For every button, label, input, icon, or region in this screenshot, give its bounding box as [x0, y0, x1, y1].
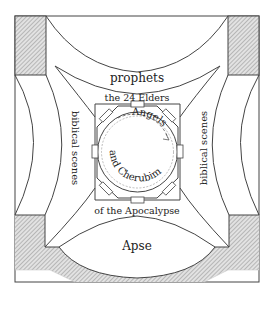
pier-top-left	[15, 16, 46, 75]
label-elders-bottom: of the Apocalypse	[94, 205, 180, 216]
label-apse: Apse	[121, 239, 152, 253]
ceiling-plan-diagram: prophets the 24 Elders of the Apocalypse…	[0, 0, 274, 312]
label-biblical-scenes-right: biblical scenes	[198, 111, 209, 185]
pier-top-right	[228, 16, 259, 75]
label-elders-top: the 24 Elders	[105, 92, 170, 103]
label-prophets: prophets	[110, 71, 164, 85]
label-biblical-scenes-left: biblical scenes	[70, 111, 81, 185]
